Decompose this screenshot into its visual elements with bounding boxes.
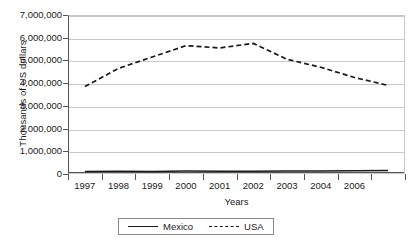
chart-legend: MexicoUSA — [118, 218, 274, 235]
series-line-mexico — [85, 171, 388, 172]
x-axis-title: Years — [68, 196, 405, 207]
x-axis-tick-label: 2000 — [175, 180, 196, 192]
x-axis-tick-label: 1997 — [74, 180, 95, 192]
y-axis-tick-mark — [63, 38, 68, 39]
x-axis-tick-label: 2002 — [243, 180, 264, 192]
x-axis-tick-label: 2001 — [209, 180, 230, 192]
series-line-usa — [85, 43, 388, 86]
y-axis-tick-mark — [63, 151, 68, 152]
legend-entry-usa[interactable]: USA — [209, 221, 264, 232]
x-axis-tick-label: 2004 — [310, 180, 331, 192]
x-axis-tick-label: 2006 — [344, 180, 365, 192]
x-axis-tick-label: 2003 — [276, 180, 297, 192]
y-axis-tick-mark — [63, 106, 68, 107]
y-axis-tick-mark — [63, 15, 68, 16]
y-axis-tick-mark — [63, 129, 68, 130]
legend-swatch-dashed-icon — [209, 226, 239, 227]
y-axis-tick-mark — [63, 83, 68, 84]
x-axis-tick-label: 1999 — [142, 180, 163, 192]
legend-label: Mexico — [163, 221, 193, 232]
legend-label: USA — [244, 221, 264, 232]
y-axis-tick-mark — [63, 60, 68, 61]
legend-entry-mexico[interactable]: Mexico — [128, 221, 193, 232]
legend-swatch-solid-icon — [128, 226, 158, 227]
x-axis-tick-labels: 199719981999200020012002200320042006 — [68, 180, 405, 194]
line-chart: Thousands of US dollars 01,000,0002,000,… — [0, 0, 415, 239]
x-axis-tick-mark — [405, 174, 406, 180]
y-axis-tick-mark — [63, 174, 68, 175]
x-axis-tick-label: 1998 — [108, 180, 129, 192]
